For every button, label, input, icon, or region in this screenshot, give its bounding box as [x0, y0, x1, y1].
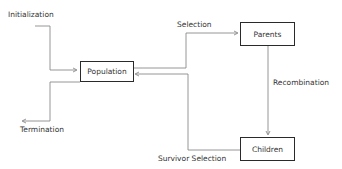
- survivor-selection-label: Survivor Selection: [158, 155, 226, 163]
- initialization-label: Initialization: [8, 11, 54, 19]
- termination-label: Termination: [20, 126, 64, 134]
- selection-edge: [134, 33, 237, 68]
- survivor-selection-edge: [136, 74, 240, 150]
- termination-edge: [23, 82, 80, 121]
- selection-label: Selection: [177, 21, 212, 29]
- recombination-label: Recombination: [273, 79, 329, 87]
- children-box: Children: [240, 137, 295, 161]
- initialization-edge: [35, 26, 76, 70]
- parents-box: Parents: [240, 22, 295, 46]
- population-box: Population: [80, 61, 134, 82]
